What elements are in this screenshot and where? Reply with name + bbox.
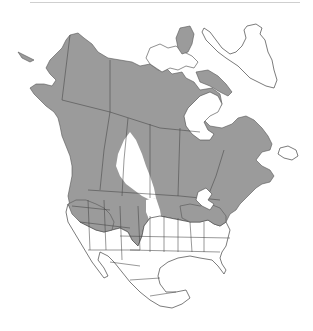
aleutian-islands	[18, 52, 34, 62]
range-map	[0, 0, 313, 331]
newfoundland	[278, 146, 298, 160]
